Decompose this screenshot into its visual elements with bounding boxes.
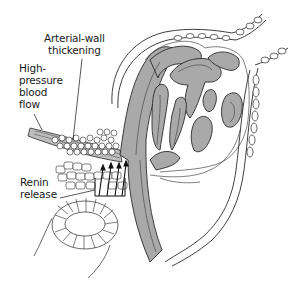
label-line: release [20, 188, 57, 200]
capillary-tuft [120, 46, 242, 262]
diagram-canvas: Arterial-wall thickening High- pressure … [0, 0, 299, 286]
label-line: blood [19, 86, 63, 98]
label-line: thickening [44, 44, 105, 56]
label-high-pressure-blood-flow: High- pressure blood flow [19, 62, 63, 110]
label-line: Renin [20, 176, 57, 188]
label-line: High- [19, 62, 63, 74]
label-line: pressure [19, 74, 63, 86]
label-line: Arterial-wall [44, 32, 105, 44]
label-line: flow [19, 98, 63, 110]
distal-tubule [52, 201, 118, 249]
label-arterial-wall-thickening: Arterial-wall thickening [44, 32, 105, 56]
label-renin-release: Renin release [20, 176, 57, 200]
